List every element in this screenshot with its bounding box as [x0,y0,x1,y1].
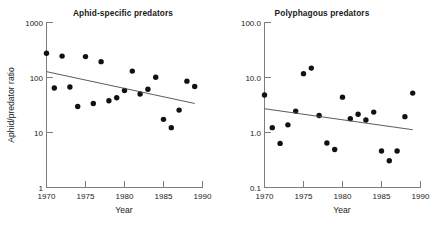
x-tick-label-left-1: 1975 [77,192,95,201]
data-point [145,87,150,92]
panel-title-right: Polyphagous predators [275,8,370,18]
data-point [98,59,103,64]
y-tick-label-right-3: 100.0 [241,19,262,28]
data-point [394,148,399,153]
data-point [44,51,49,56]
data-point [130,68,135,73]
x-tick-label-right-2: 1980 [334,192,352,201]
x-tick-label-left-2: 1980 [116,192,134,201]
data-point [59,53,64,58]
panel-polyphagous-predators: Polyphagous predators 100.0 10.0 1.0 0.1… [220,0,440,229]
data-point [355,112,360,117]
data-point [153,75,158,80]
x-tick-label-left-4: 1990 [194,192,212,201]
data-point [91,101,96,106]
data-point [324,140,329,145]
data-point [410,90,415,95]
x-axis-title-left: Year [115,205,133,215]
data-point [402,114,407,119]
data-point [340,94,345,99]
data-point [270,125,275,130]
data-point [176,107,181,112]
data-point [192,84,197,89]
y-axis-title-left: Aphid/predator ratio [6,67,16,143]
x-tick-label-left-3: 1985 [155,192,173,201]
data-series-right [262,65,416,163]
y-axis-ticks-right [265,23,272,188]
data-point [309,65,314,70]
data-point [371,109,376,114]
plot-area-right: Polyphagous predators 100.0 10.0 1.0 0.1… [220,0,440,229]
data-point [262,92,267,97]
panel-aphid-specific-predators: Aphid-specific predators 1000 [0,0,220,229]
data-point [332,147,337,152]
data-point [379,148,384,153]
data-point [67,84,72,89]
x-tick-label-right-4: 1990 [412,192,430,201]
y-tick-label-left-3: 1000 [25,19,43,28]
y-tick-label-left-1: 10 [34,129,43,138]
data-point [301,71,306,76]
data-point [277,141,282,146]
x-axis-ticks-right [265,181,421,188]
x-tick-label-left-0: 1970 [38,192,56,201]
data-point [161,117,166,122]
y-tick-label-right-1: 1.0 [250,129,262,138]
data-point [184,78,189,83]
data-point [285,122,290,127]
x-tick-label-right-1: 1975 [295,192,313,201]
y-tick-label-left-2: 100 [30,74,44,83]
data-point [363,117,368,122]
x-axis-ticks-left [47,181,203,188]
data-point [83,54,88,59]
plot-area-left: Aphid-specific predators 1000 [0,0,220,229]
x-tick-label-right-0: 1970 [256,192,274,201]
data-point [114,95,119,100]
panel-title-left: Aphid-specific predators [73,8,173,18]
data-point [106,98,111,103]
y-tick-label-right-2: 10.0 [245,74,261,83]
x-tick-label-right-3: 1985 [373,192,391,201]
data-point [75,104,80,109]
data-point [52,85,57,90]
y-axis-ticks-left [47,23,54,188]
data-point [169,125,174,130]
data-point [387,158,392,163]
x-axis-title-right: Year [333,205,351,215]
data-point [316,113,321,118]
data-series-left [44,51,198,131]
figure-two-panel-scatter: Aphid-specific predators 1000 [0,0,440,229]
